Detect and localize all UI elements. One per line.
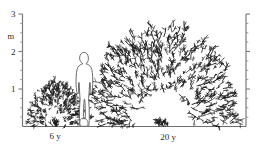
branch-barb (175, 42, 176, 44)
left-axis-tick-label-3: 3 (11, 9, 16, 19)
figure-canvas: 3 2 1 m (0, 0, 265, 150)
branch-barb (138, 94, 140, 95)
branch-barb (188, 113, 190, 114)
branch-barb (116, 118, 117, 121)
branch-barb (41, 99, 42, 100)
branch-barb (199, 41, 200, 42)
branch-barb (139, 48, 140, 50)
branch-barb (56, 122, 58, 123)
branch-barb (43, 122, 44, 124)
branch-barb (236, 95, 237, 96)
branch-barb (162, 89, 165, 90)
figure-background (0, 0, 265, 150)
left-axis-tick-label-1: 1 (11, 84, 16, 94)
branch-barb (166, 87, 167, 88)
branch-barb (71, 124, 72, 125)
branch-barb (176, 33, 178, 34)
branch-barb (69, 94, 70, 95)
left-axis-unit-label: m (7, 31, 14, 41)
branch-barb (57, 112, 58, 113)
age-label-large-shrub: 20 y (160, 132, 176, 142)
branch-barb (179, 64, 181, 65)
shrub-growth-figure: 3 2 1 m (0, 0, 265, 150)
left-axis-tick-label-2: 2 (11, 47, 16, 57)
branch-barb (214, 46, 218, 47)
human-foot (80, 119, 88, 127)
branch-barb (221, 72, 222, 73)
age-label-small-shrub: 6 y (49, 131, 61, 141)
branch-barb (40, 110, 41, 111)
branch-barb (51, 90, 52, 92)
branch-stroke (162, 83, 163, 87)
branch-barb (174, 81, 175, 83)
branch-barb (48, 84, 49, 85)
branch-barb (111, 91, 112, 94)
branch-barb (206, 122, 208, 123)
branch-barb (172, 40, 173, 42)
branch-barb (202, 89, 205, 90)
